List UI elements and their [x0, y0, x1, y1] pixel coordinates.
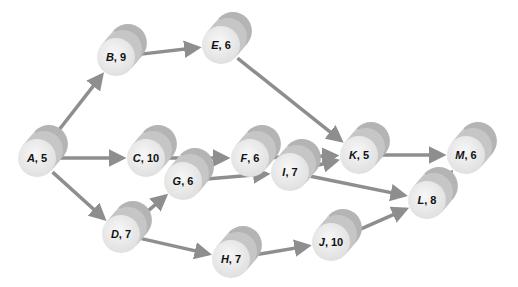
edge-a-to-d: [53, 172, 104, 218]
activity-duration: , 8: [424, 194, 436, 206]
node-label: A, 5: [26, 152, 47, 164]
node-label: F, 6: [241, 152, 260, 164]
activity-duration: , 7: [119, 228, 131, 240]
edge-i-to-l: [311, 176, 405, 195]
activity-duration: , 6: [464, 149, 476, 161]
node-m: M, 6: [447, 122, 497, 174]
node-b: B, 9: [97, 24, 147, 76]
activity-letter: D: [111, 228, 119, 240]
activity-network-diagram: A, 5B, 9C, 10D, 7E, 6F, 6G, 6H, 7I, 7J, …: [0, 0, 518, 287]
activity-duration: , 6: [219, 39, 231, 51]
node-e: E, 6: [202, 12, 252, 64]
activity-letter: B: [106, 51, 114, 63]
node-label: C, 10: [133, 152, 159, 164]
node-l: L, 8: [408, 167, 458, 219]
node-label: M, 6: [455, 149, 476, 161]
node-label: D, 7: [111, 228, 131, 240]
node-j: J, 10: [312, 209, 362, 261]
node-label: J, 10: [319, 236, 343, 248]
node-label: H, 7: [221, 253, 241, 265]
activity-letter: A: [26, 152, 35, 164]
activity-duration: , 10: [325, 236, 343, 248]
activity-duration: , 5: [35, 152, 47, 164]
node-label: G, 6: [173, 175, 194, 187]
node-label: K, 5: [349, 149, 369, 161]
node-label: L, 8: [418, 194, 437, 206]
node-k: K, 5: [340, 122, 390, 174]
edge-b-to-e: [137, 48, 198, 55]
activity-duration: , 5: [357, 149, 369, 161]
activity-duration: , 6: [247, 152, 259, 164]
node-h: H, 7: [212, 226, 262, 278]
activity-duration: , 10: [141, 152, 159, 164]
nodes-layer: A, 5B, 9C, 10D, 7E, 6F, 6G, 6H, 7I, 7J, …: [18, 12, 497, 278]
node-d: D, 7: [102, 201, 152, 253]
node-label: B, 9: [106, 51, 126, 63]
node-label: E, 6: [211, 39, 231, 51]
activity-duration: , 6: [181, 175, 193, 187]
activity-duration: , 7: [229, 253, 241, 265]
edge-d-to-h: [141, 239, 208, 254]
node-label: I, 7: [282, 166, 297, 178]
activity-duration: , 9: [114, 51, 126, 63]
activity-duration: , 7: [285, 166, 297, 178]
node-a: A, 5: [18, 125, 68, 177]
